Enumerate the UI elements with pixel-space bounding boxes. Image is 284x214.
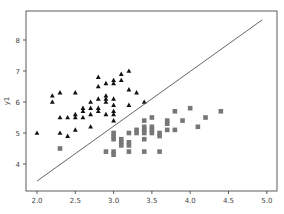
x-tick-label: 4.5 <box>223 197 234 205</box>
y-axis-label: y1 <box>3 97 11 106</box>
y-axis: 45678 <box>16 37 26 169</box>
y-tick-label: 7 <box>16 68 20 76</box>
square-marker <box>142 118 147 123</box>
square-marker <box>196 125 201 130</box>
chart-canvas: 2.02.53.03.54.04.55.0 45678 y1 <box>0 0 284 214</box>
square-marker <box>104 149 109 154</box>
square-marker <box>150 125 155 130</box>
square-marker <box>188 106 193 111</box>
square-marker <box>157 149 162 154</box>
y-tick-label: 4 <box>16 161 21 169</box>
y-tick-label: 6 <box>16 99 21 107</box>
x-tick-label: 3.0 <box>108 197 119 205</box>
square-marker <box>173 109 178 114</box>
square-marker <box>127 149 132 154</box>
y-tick-label: 5 <box>16 130 20 138</box>
y-tick-label: 8 <box>16 37 20 45</box>
plot-frame <box>26 11 277 191</box>
square-marker <box>142 125 147 130</box>
square-marker <box>180 118 185 123</box>
square-marker <box>173 128 178 133</box>
x-tick-label: 4.0 <box>185 197 196 205</box>
square-marker <box>119 137 124 142</box>
square-marker <box>127 131 132 136</box>
x-tick-label: 2.5 <box>70 197 81 205</box>
scatter-chart: 2.02.53.03.54.04.55.0 45678 y1 <box>0 0 284 214</box>
square-marker <box>150 115 155 120</box>
x-tick-label: 2.0 <box>31 197 42 205</box>
square-marker <box>219 109 224 114</box>
square-marker <box>111 131 116 136</box>
square-marker <box>111 152 116 157</box>
square-marker <box>157 131 162 136</box>
square-marker <box>142 137 147 142</box>
square-marker <box>203 115 208 120</box>
square-marker <box>134 128 139 133</box>
square-marker <box>127 140 132 145</box>
square-marker <box>58 146 63 151</box>
x-tick-label: 3.5 <box>146 197 157 205</box>
square-marker <box>142 149 147 154</box>
square-marker <box>165 128 170 133</box>
x-tick-label: 5.0 <box>261 197 272 205</box>
square-marker <box>165 118 170 123</box>
x-axis: 2.02.53.03.54.04.55.0 <box>31 191 272 205</box>
